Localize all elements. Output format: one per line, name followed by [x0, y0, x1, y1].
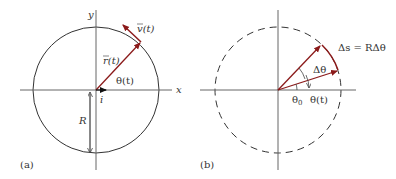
arc-length-label: Δs = RΔθ: [338, 42, 386, 53]
angle-label: θ(t): [116, 75, 134, 86]
radius-label: R: [78, 115, 87, 126]
y-axis-label: y: [87, 9, 94, 20]
arc-delta-theta: [299, 68, 305, 79]
position-label: r(t): [103, 55, 120, 66]
x-axis-label: x: [176, 84, 182, 95]
figure: y x v(t) r(t) θ(t) i R (a) Δs = RΔθ Δθ θ…: [0, 0, 396, 179]
unit-vector-label: i: [100, 94, 103, 105]
panel-b: Δs = RΔθ Δθ θ0 θ(t) (b): [200, 10, 386, 170]
theta-t-label: θ(t): [310, 94, 328, 105]
arc-theta0: [296, 84, 297, 90]
theta0-label: θ0: [292, 94, 303, 107]
panel-b-label: (b): [200, 159, 214, 170]
panel-a: y x v(t) r(t) θ(t) i R (a): [20, 9, 182, 170]
velocity-label: v(t): [137, 23, 155, 34]
panel-a-label: (a): [20, 159, 34, 170]
delta-theta-label: Δθ: [313, 64, 326, 75]
